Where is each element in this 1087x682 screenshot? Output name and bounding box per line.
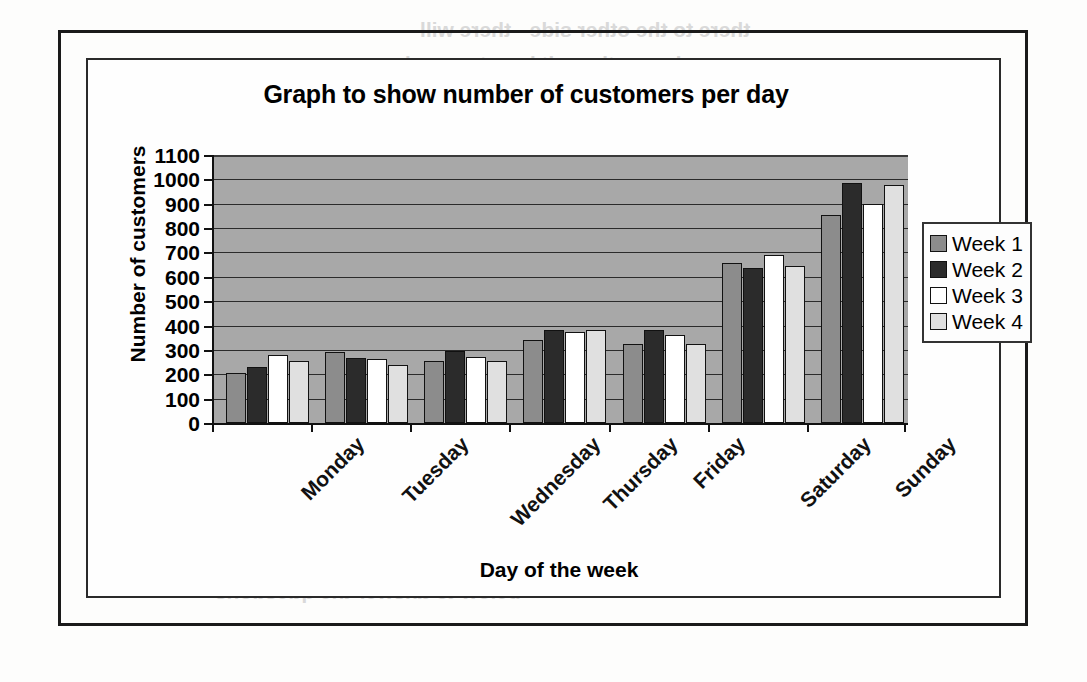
legend-item-week-4[interactable]: Week 4 xyxy=(930,308,1023,334)
x-tickmark xyxy=(609,423,611,432)
y-tickmark xyxy=(204,228,212,230)
x-axis-tickmarks xyxy=(212,423,906,432)
chart-title: Graph to show number of customers per da… xyxy=(86,80,966,109)
bar xyxy=(226,373,246,423)
legend-label: Week 3 xyxy=(952,285,1023,306)
bar xyxy=(842,183,862,423)
legend-label: Week 4 xyxy=(952,311,1023,332)
bar xyxy=(523,340,543,423)
x-tick-label: Saturday xyxy=(795,432,876,513)
y-tickmark xyxy=(204,423,212,425)
bar xyxy=(884,185,904,423)
y-tickmark xyxy=(204,277,212,279)
bar xyxy=(487,361,507,423)
y-tickmark xyxy=(204,374,212,376)
bar xyxy=(424,361,444,423)
bar xyxy=(289,361,309,423)
y-tickmark xyxy=(204,399,212,401)
y-tickmark xyxy=(204,179,212,181)
legend: Week 1Week 2Week 3Week 4 xyxy=(922,222,1032,343)
y-tickmark xyxy=(204,204,212,206)
x-tickmark xyxy=(311,423,313,432)
bar-group xyxy=(809,155,908,423)
x-axis-title: Day of the week xyxy=(212,558,906,582)
x-axis-tick-labels: MondayTuesdayWednesdayThursdayFridaySatu… xyxy=(212,432,912,542)
bar xyxy=(268,355,288,423)
legend-swatch-icon xyxy=(930,235,947,252)
plot-area xyxy=(212,155,908,425)
y-tick-label: 700 xyxy=(165,242,200,263)
bar-group xyxy=(710,155,809,423)
bar xyxy=(346,358,366,423)
x-tickmark xyxy=(708,423,710,432)
bar xyxy=(665,335,685,423)
bar xyxy=(466,357,486,423)
bar-group xyxy=(214,155,313,423)
x-tickmark xyxy=(807,423,809,432)
bar-series-container xyxy=(214,155,908,423)
x-tick-label: Thursday xyxy=(599,432,683,516)
x-tickmark xyxy=(410,423,412,432)
legend-swatch-icon xyxy=(930,313,947,330)
scanned-page: there to the other side - there will and… xyxy=(0,0,1087,682)
bar xyxy=(743,268,763,423)
x-tick-label: Monday xyxy=(297,432,370,505)
x-tickmark xyxy=(509,423,511,432)
legend-swatch-icon xyxy=(930,287,947,304)
y-tick-label: 1100 xyxy=(154,145,200,166)
bar xyxy=(863,204,883,423)
legend-label: Week 1 xyxy=(952,233,1023,254)
x-tick-label: Sunday xyxy=(891,432,962,503)
y-tick-label: 0 xyxy=(188,413,200,434)
y-tick-label: 800 xyxy=(165,218,200,239)
bar-group xyxy=(412,155,511,423)
y-tick-label: 400 xyxy=(165,315,200,336)
y-tickmark xyxy=(204,350,212,352)
bar xyxy=(722,263,742,423)
x-tick-label: Friday xyxy=(688,432,750,494)
y-tick-label: 200 xyxy=(165,364,200,385)
bar xyxy=(623,344,643,423)
bar xyxy=(325,352,345,423)
y-tick-label: 100 xyxy=(165,388,200,409)
bar xyxy=(821,215,841,423)
legend-label: Week 2 xyxy=(952,259,1023,280)
y-tickmark xyxy=(204,301,212,303)
bar xyxy=(764,255,784,423)
bar xyxy=(388,365,408,423)
x-tick-label: Wednesday xyxy=(506,432,605,531)
y-tickmark xyxy=(204,252,212,254)
legend-item-week-2[interactable]: Week 2 xyxy=(930,256,1023,282)
y-axis-tick-labels: 010020030040050060070080090010001100 xyxy=(128,155,204,423)
bar xyxy=(445,351,465,423)
bar xyxy=(644,330,664,423)
bar xyxy=(367,359,387,423)
bar xyxy=(544,330,564,423)
x-tick-label: Tuesday xyxy=(397,432,473,508)
bar xyxy=(247,367,267,423)
y-tick-label: 600 xyxy=(165,266,200,287)
bar-chart: Graph to show number of customers per da… xyxy=(86,58,1001,598)
y-tick-label: 300 xyxy=(165,339,200,360)
bar xyxy=(586,330,606,423)
y-tick-label: 1000 xyxy=(153,169,200,190)
bar-group xyxy=(511,155,610,423)
y-tick-label: 500 xyxy=(165,291,200,312)
bar-group xyxy=(313,155,412,423)
legend-item-week-3[interactable]: Week 3 xyxy=(930,282,1023,308)
x-tickmark xyxy=(212,423,214,432)
x-tickmark xyxy=(904,423,906,432)
y-tickmark xyxy=(204,155,212,157)
bar-group xyxy=(611,155,710,423)
bar xyxy=(686,344,706,423)
legend-swatch-icon xyxy=(930,261,947,278)
bar xyxy=(785,266,805,423)
legend-item-week-1[interactable]: Week 1 xyxy=(930,230,1023,256)
y-tick-label: 900 xyxy=(165,193,200,214)
bar xyxy=(565,332,585,423)
y-tickmark xyxy=(204,326,212,328)
